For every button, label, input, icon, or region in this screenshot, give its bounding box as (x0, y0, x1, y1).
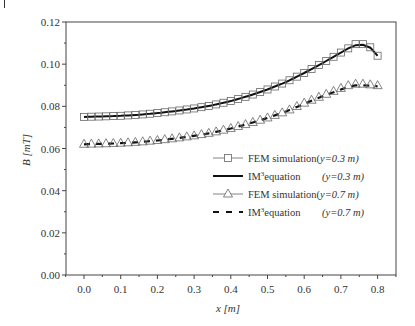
y-tick-label: 0.02 (41, 227, 60, 239)
y-tick-label: 0.06 (41, 143, 61, 155)
series-group (80, 41, 383, 148)
legend: FEM simulation(y=0.3 m)IM3equation(y=0.3… (213, 153, 365, 219)
y-tick-label: 0.10 (41, 58, 61, 70)
x-tick-label: 0.3 (187, 283, 201, 295)
x-tick-label: 0.8 (371, 283, 385, 295)
y-axis: 0.000.020.040.060.080.100.12 (41, 16, 66, 281)
im3-curve-y03 (84, 45, 378, 117)
x-tick-label: 0.6 (297, 283, 311, 295)
x-tick-label: 0.1 (114, 283, 128, 295)
legend-label: FEM simulation(y=0.3 m) (248, 153, 359, 165)
x-axis-title: x [m] (215, 302, 240, 314)
x-tick-label: 0.2 (151, 283, 165, 295)
plot-frame (66, 22, 396, 275)
y-axis-title: B [mT] (20, 134, 32, 166)
x-tick-label: 0.4 (224, 283, 238, 295)
x-tick-label: 0.0 (77, 283, 91, 295)
y-tick-label: 0.04 (41, 185, 61, 197)
legend-label: IM3equation(y=0.3 m) (248, 170, 365, 183)
y-tick-label: 0.00 (41, 269, 61, 281)
legend-label: FEM simulation(y=0.7 m) (248, 189, 359, 201)
x-axis: 0.00.10.20.30.40.50.60.70.8 (66, 275, 396, 295)
legend-square-icon (225, 155, 232, 162)
x-tick-label: 0.7 (334, 283, 348, 295)
x-tick-label: 0.5 (261, 283, 275, 295)
y-tick-label: 0.08 (41, 100, 61, 112)
legend-label: IM3equation(y=0.7 m) (248, 206, 365, 219)
legend-triangle-icon (224, 189, 233, 197)
line-chart: 0.000.020.040.060.080.100.12 0.00.10.20.… (0, 0, 415, 326)
y-tick-label: 0.12 (41, 16, 60, 28)
